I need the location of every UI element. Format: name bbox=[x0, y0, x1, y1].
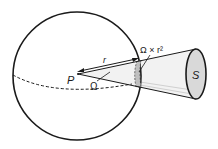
label-point: P bbox=[67, 74, 75, 86]
label-area: Ω × r² bbox=[140, 45, 163, 55]
label-surface: S bbox=[192, 69, 200, 81]
arrowhead-left-icon bbox=[77, 68, 84, 72]
solid-angle-diagram: P r Ω Ω × r² S bbox=[0, 0, 218, 149]
point-p-dot bbox=[77, 73, 79, 75]
label-radius: r bbox=[103, 55, 107, 65]
label-solid-angle: Ω bbox=[90, 81, 98, 92]
